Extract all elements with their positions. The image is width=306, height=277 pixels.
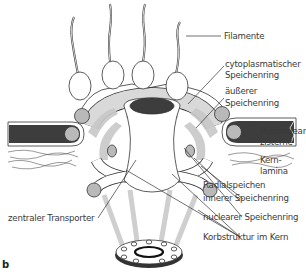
filament-4 [166, 22, 188, 100]
central-transporter [124, 98, 180, 192]
nuclear-lamina-left [8, 150, 78, 169]
filament-3 [132, 4, 154, 89]
filament-1 [69, 17, 91, 100]
label-zentraler-transporter: zentraler Transporter [8, 213, 95, 223]
label-aeusserer-line2: Speichenring [225, 98, 279, 108]
label-cytoplasmatischer-line1: cytoplasmatischer [225, 59, 301, 69]
label-cytoplasmatischer-line2: Speichenring [225, 70, 279, 80]
label-perinuclear-line1: Perinuclear- [260, 126, 306, 136]
label-kernlamina-line2: lamina [260, 166, 288, 176]
label-kernlamina-line1: Kern- [260, 155, 282, 165]
label-perinuclear-line2: zisterne [260, 137, 293, 147]
panel-letter: b [2, 259, 9, 270]
label-filamente: Filamente [224, 31, 264, 41]
label-innerer-speichenring: innerer Speichenring [203, 193, 289, 203]
nuclear-pore-diagram: Filamente cytoplasmatischer Speichenring… [0, 0, 306, 277]
label-radialspeichen: Radialspeichen [203, 180, 265, 190]
filament-2 [102, 4, 124, 89]
label-korbstruktur: Korbstruktur im Kern [203, 232, 288, 242]
label-nuclearer-speichenring: nuclearer Speichenring [203, 212, 298, 222]
nuclear-basket-ring [115, 240, 183, 268]
label-aeusserer-line1: äußerer [225, 86, 258, 96]
